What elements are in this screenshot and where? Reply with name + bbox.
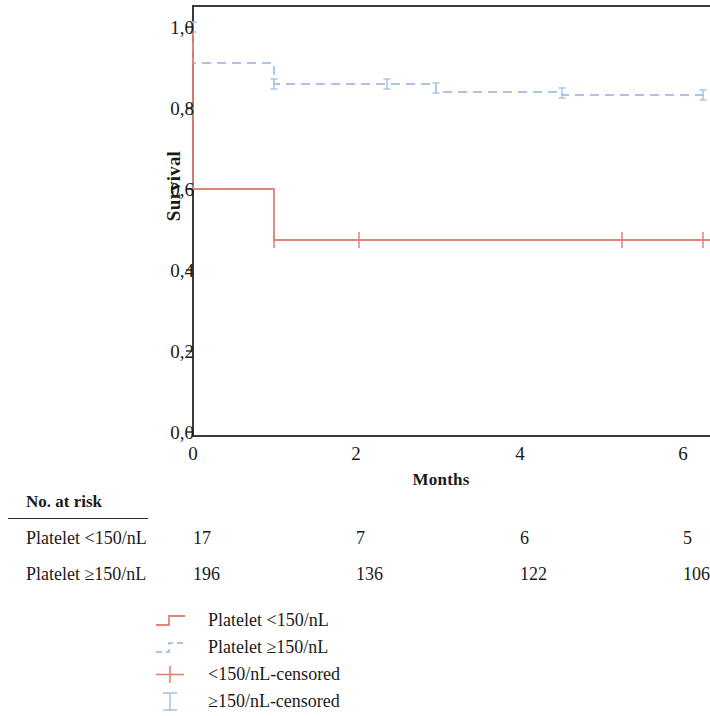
step-line-solid-icon — [152, 607, 198, 634]
legend-label-platelet-high: Platelet ≥150/nL — [208, 635, 328, 660]
survival-curves-svg — [172, 5, 710, 437]
y-tick-label-1-0: 1,0 — [140, 18, 194, 37]
x-tick-label-0: 0 — [173, 444, 213, 463]
risk-value-low-2: 7 — [356, 528, 365, 549]
y-tick-marks — [186, 27, 193, 432]
risk-row-label-low: Platelet <150/nL — [26, 528, 147, 549]
x-tick-label-4: 4 — [500, 444, 540, 463]
axis-frame — [193, 5, 710, 437]
series-platelet-low — [193, 27, 710, 248]
kaplan-meier-figure: 1,0 0,8 0,6 0,4 0,2 0,0 Survival 0 2 4 6… — [0, 0, 710, 716]
y-axis-title: Survival — [163, 116, 185, 256]
y-tick-label-0-2: 0,2 — [140, 342, 194, 361]
legend-item-platelet-high: Platelet ≥150/nL — [152, 634, 572, 661]
risk-value-high-6: 106 — [683, 564, 710, 585]
y-tick-label-0-4: 0,4 — [140, 261, 194, 280]
legend-label-censored-high: ≥150/nL-censored — [208, 689, 340, 714]
y-tick-label-0-0: 0,0 — [140, 423, 194, 442]
x-axis-title: Months — [172, 470, 710, 490]
legend-item-platelet-low: Platelet <150/nL — [152, 607, 572, 634]
risk-value-low-0: 17 — [193, 528, 211, 549]
x-tick-label-2: 2 — [336, 444, 376, 463]
risk-value-low-4: 6 — [520, 528, 529, 549]
risk-value-high-0: 196 — [193, 564, 220, 585]
risk-table-rule — [8, 518, 148, 519]
plot-area: 1,0 0,8 0,6 0,4 0,2 0,0 Survival — [172, 5, 710, 437]
step-line-dashed-icon — [152, 634, 198, 661]
legend-item-censored-high: ≥150/nL-censored — [152, 688, 572, 715]
risk-table-title: No. at risk — [26, 492, 102, 512]
risk-value-high-2: 136 — [356, 564, 383, 585]
risk-value-high-4: 122 — [520, 564, 547, 585]
legend: Platelet <150/nL Platelet ≥150/nL <150/n… — [152, 607, 572, 715]
risk-row-label-high: Platelet ≥150/nL — [26, 564, 146, 585]
censor-marks-high — [190, 22, 707, 100]
legend-label-platelet-low: Platelet <150/nL — [208, 608, 329, 633]
x-tick-label-6: 6 — [663, 444, 703, 463]
legend-label-censored-low: <150/nL-censored — [208, 662, 340, 687]
series-platelet-high — [190, 22, 710, 100]
plus-mark-icon — [152, 661, 198, 688]
legend-item-censored-low: <150/nL-censored — [152, 661, 572, 688]
risk-value-low-6: 5 — [683, 528, 692, 549]
i-bar-mark-icon — [152, 688, 198, 715]
